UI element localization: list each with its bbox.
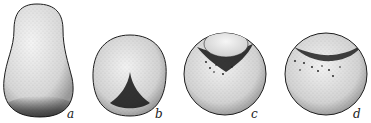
panel-label-a: a [67, 107, 74, 121]
panel-label-c: c [251, 107, 258, 121]
panel-label-d: d [353, 107, 361, 121]
panel-label-b: b [155, 107, 163, 121]
egg-c-cap [204, 31, 248, 57]
panel-a: a [0, 0, 80, 123]
embryo-stages-figure: a b c [0, 0, 371, 123]
panel-d: d [280, 30, 371, 123]
panel-c: c [180, 30, 270, 123]
panel-b: b [90, 30, 170, 123]
